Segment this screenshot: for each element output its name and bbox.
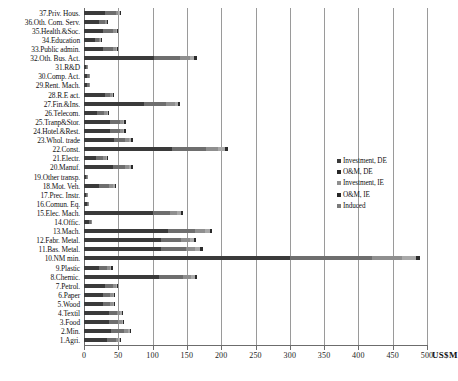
bar-segment bbox=[200, 247, 203, 251]
legend-item[interactable]: Investment, DE bbox=[337, 157, 387, 165]
y-axis-label: 6.Paper bbox=[58, 290, 80, 299]
x-tick-450 bbox=[393, 345, 394, 350]
bar-segment bbox=[195, 275, 197, 279]
bar-segment bbox=[180, 56, 190, 60]
bar-segment bbox=[84, 156, 96, 160]
bar-segment bbox=[117, 284, 118, 288]
bar-segment bbox=[84, 284, 105, 288]
bar-segment bbox=[181, 211, 183, 215]
bar-row bbox=[84, 56, 427, 60]
bar-chart: 37.Priv. Hous.36.Oth. Com. Serv.35.Healt… bbox=[0, 0, 458, 381]
bar-segment bbox=[84, 211, 153, 215]
bar-segment bbox=[84, 302, 103, 306]
y-axis-label: 16.Comun. Eq. bbox=[37, 199, 80, 208]
bar-row bbox=[84, 47, 427, 51]
legend-swatch-icon bbox=[337, 181, 341, 185]
bar-stack bbox=[84, 83, 89, 87]
y-axis-label: 32.Oth. Bus. Act. bbox=[30, 54, 80, 63]
bar-segment bbox=[84, 29, 103, 33]
y-axis-labels: 37.Priv. Hous.36.Oth. Com. Serv.35.Healt… bbox=[0, 8, 82, 345]
bar-stack bbox=[84, 275, 197, 279]
x-tick-50 bbox=[118, 345, 119, 350]
y-axis-label: 28.R.E act. bbox=[48, 90, 80, 99]
bar-segment bbox=[84, 238, 161, 242]
bar-segment bbox=[372, 256, 402, 260]
bar-segment bbox=[84, 93, 105, 97]
bar-stack bbox=[84, 184, 116, 188]
y-axis-label: 33.Public admin. bbox=[31, 44, 80, 53]
bar-segment bbox=[159, 275, 182, 279]
bar-segment bbox=[161, 238, 182, 242]
legend-item[interactable]: Induced bbox=[337, 202, 387, 210]
bar-stack bbox=[84, 220, 92, 224]
bar-stack bbox=[84, 193, 88, 197]
bar-segment bbox=[84, 56, 154, 60]
legend-item[interactable]: O&M, DE bbox=[337, 168, 387, 176]
x-tick-300 bbox=[290, 345, 291, 350]
bar-segment bbox=[89, 83, 90, 87]
bar-segment bbox=[153, 211, 171, 215]
y-axis-label: 13.Mach. bbox=[53, 227, 80, 236]
bar-segment bbox=[113, 93, 114, 97]
bar-segment bbox=[194, 238, 196, 242]
bar-stack bbox=[84, 102, 180, 106]
bar-segment bbox=[172, 147, 206, 151]
x-tick-350 bbox=[324, 345, 325, 350]
bar-segment bbox=[114, 302, 115, 306]
x-tick-label-200: 200 bbox=[215, 351, 228, 360]
bar-stack bbox=[84, 129, 126, 133]
bar-segment bbox=[123, 320, 124, 324]
bar-stack bbox=[84, 120, 126, 124]
bar-row bbox=[84, 138, 427, 142]
bar-row bbox=[84, 38, 427, 42]
bar-stack bbox=[84, 138, 133, 142]
x-tick-label-100: 100 bbox=[146, 351, 159, 360]
bar-segment bbox=[84, 229, 168, 233]
bar-segment bbox=[84, 247, 161, 251]
x-tick-label-0: 0 bbox=[82, 351, 86, 360]
bar-segment bbox=[186, 247, 196, 251]
x-tick-label-350: 350 bbox=[318, 351, 331, 360]
y-axis-label: 17.Prec. Instr. bbox=[40, 190, 80, 199]
bar-segment bbox=[108, 111, 109, 115]
y-axis-label: 29.Rent. Mach. bbox=[36, 81, 80, 90]
bar-segment bbox=[84, 266, 99, 270]
bar-segment bbox=[130, 329, 131, 333]
bar-row bbox=[84, 74, 427, 78]
bar-segment bbox=[84, 20, 99, 24]
bar-segment bbox=[97, 111, 104, 115]
y-axis-label: 18.Mot. Veh. bbox=[43, 181, 80, 190]
x-tick-label-150: 150 bbox=[181, 351, 194, 360]
bar-segment bbox=[87, 65, 88, 69]
bar-stack bbox=[84, 56, 197, 60]
bar-stack bbox=[84, 311, 123, 315]
legend-item[interactable]: O&M, IE bbox=[337, 191, 387, 199]
bar-segment bbox=[107, 156, 108, 160]
bar-segment bbox=[131, 138, 132, 142]
bar-segment bbox=[416, 256, 420, 260]
bar-segment bbox=[87, 193, 88, 197]
gridline-500 bbox=[427, 8, 428, 345]
legend-item[interactable]: Investment, IE bbox=[337, 179, 387, 187]
bar-segment bbox=[115, 184, 116, 188]
bar-segment bbox=[114, 293, 115, 297]
y-axis-label: 22.Const. bbox=[53, 145, 80, 154]
bar-segment bbox=[84, 311, 109, 315]
y-axis-label: 10.NM min. bbox=[45, 254, 80, 263]
bar-row bbox=[84, 266, 427, 270]
y-axis-label: 24.Hotel.&Rest. bbox=[33, 126, 80, 135]
legend-swatch-icon bbox=[337, 170, 341, 174]
bar-segment bbox=[111, 266, 112, 270]
bar-segment bbox=[84, 11, 105, 15]
bar-segment bbox=[110, 129, 120, 133]
bar-stack bbox=[84, 238, 196, 242]
y-axis-label: 12.Fabr. Metal. bbox=[36, 236, 80, 245]
bar-segment bbox=[84, 338, 107, 342]
y-axis-label: 25.Tranp&Stor. bbox=[35, 117, 80, 126]
bar-row bbox=[84, 284, 427, 288]
bar-segment bbox=[168, 229, 195, 233]
bar-row bbox=[84, 311, 427, 315]
bar-segment bbox=[166, 102, 174, 106]
x-tick-100 bbox=[153, 345, 154, 350]
bar-stack bbox=[84, 147, 228, 151]
